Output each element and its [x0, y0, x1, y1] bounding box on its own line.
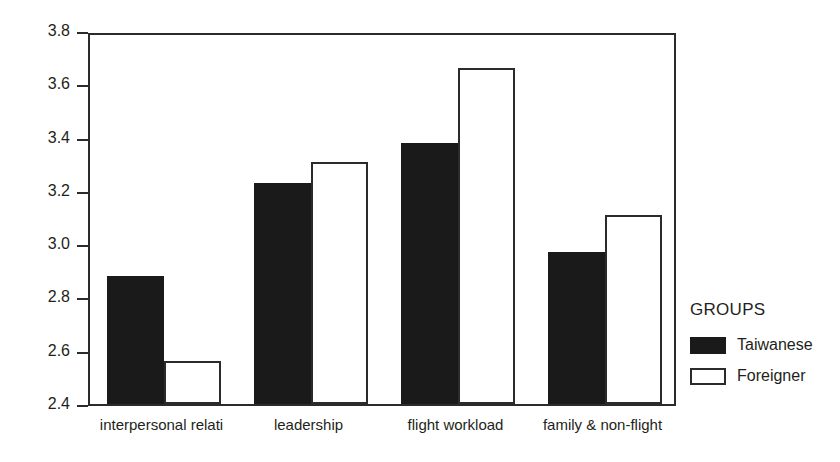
- bar-taiwanese-group-1: [107, 276, 164, 404]
- y-tick-mark: [77, 298, 88, 300]
- y-tick-mark: [77, 85, 88, 87]
- y-tick-label: 2.8: [48, 288, 70, 306]
- legend-item-foreigner: Foreigner: [690, 367, 836, 385]
- y-tick-mark: [77, 139, 88, 141]
- legend-title: GROUPS: [690, 300, 836, 320]
- legend: GROUPS TaiwaneseForeigner: [690, 300, 836, 398]
- plot-area-frame: [88, 33, 676, 406]
- legend-item-label: Foreigner: [737, 367, 805, 385]
- y-tick-mark: [77, 405, 88, 407]
- legend-item-label: Taiwanese: [737, 336, 813, 354]
- legend-entries: TaiwaneseForeigner: [690, 336, 836, 385]
- bar-chart-figure: 2.42.62.83.03.23.43.63.8 interpersonal r…: [0, 0, 840, 462]
- y-tick-label: 3.4: [48, 129, 70, 147]
- y-tick-label: 3.0: [48, 235, 70, 253]
- outlined-white-swatch: [690, 368, 726, 385]
- y-tick-mark: [77, 32, 88, 34]
- x-tick-label-3: flight workload: [408, 416, 504, 433]
- bar-taiwanese-group-3: [401, 143, 458, 404]
- y-tick-label: 3.2: [48, 182, 70, 200]
- plot-area: [90, 35, 674, 404]
- x-tick-label-1: interpersonal relati: [100, 416, 223, 433]
- y-tick-mark: [77, 352, 88, 354]
- y-tick-label: 2.6: [48, 342, 70, 360]
- y-tick-label: 3.8: [48, 22, 70, 40]
- x-tick-label-4: family & non-flight: [543, 416, 662, 433]
- legend-item-taiwanese: Taiwanese: [690, 336, 836, 354]
- bar-taiwanese-group-4: [548, 252, 605, 404]
- y-tick-label: 3.6: [48, 75, 70, 93]
- bar-taiwanese-group-2: [254, 183, 311, 404]
- filled-black-swatch: [690, 337, 726, 354]
- y-tick-mark: [77, 245, 88, 247]
- bar-foreigner-group-4: [605, 215, 662, 404]
- bar-foreigner-group-1: [164, 361, 221, 404]
- y-tick-mark: [77, 192, 88, 194]
- x-tick-label-2: leadership: [274, 416, 343, 433]
- y-tick-label: 2.4: [48, 395, 70, 413]
- bar-foreigner-group-3: [458, 68, 515, 404]
- bar-foreigner-group-2: [311, 162, 368, 404]
